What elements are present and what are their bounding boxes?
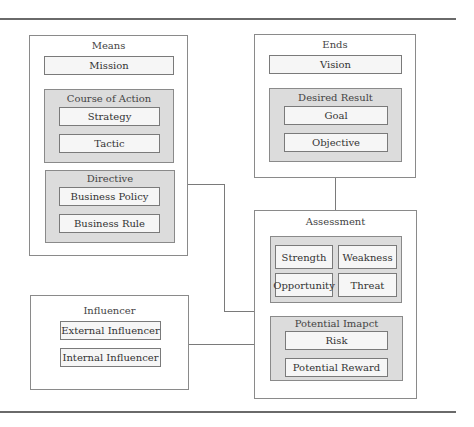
top-rule bbox=[0, 18, 456, 20]
potential-reward-box: Potential Reward bbox=[285, 358, 388, 377]
mission-box: Mission bbox=[44, 56, 174, 75]
connector-means-assessment bbox=[224, 184, 225, 312]
bottom-rule bbox=[0, 411, 456, 413]
goal-box: Goal bbox=[284, 106, 388, 125]
desired-result-title: Desired Result bbox=[270, 92, 401, 103]
ends-title: Ends bbox=[255, 39, 415, 50]
threat-box: Threat bbox=[338, 273, 397, 297]
strength-box: Strength bbox=[275, 245, 333, 269]
connector-means-assessment bbox=[224, 311, 254, 312]
vision-box: Vision bbox=[269, 55, 402, 74]
influencer-title: Influencer bbox=[31, 305, 188, 316]
directive-title: Directive bbox=[46, 173, 174, 184]
objective-box: Objective bbox=[284, 133, 388, 152]
internal-influencer-box: Internal Influencer bbox=[60, 348, 161, 367]
course-of-action-title: Course of Action bbox=[45, 93, 173, 104]
opportunity-box: Opportunity bbox=[275, 273, 333, 297]
strategy-box: Strategy bbox=[59, 107, 160, 126]
connector-ends-assessment bbox=[335, 177, 336, 210]
external-influencer-box: External Influencer bbox=[60, 321, 161, 340]
weakness-box: Weakness bbox=[338, 245, 397, 269]
assessment-title: Assessment bbox=[255, 216, 416, 227]
connector-influencer-assessment bbox=[188, 344, 254, 345]
business-rule-box: Business Rule bbox=[59, 214, 160, 233]
influencer-box: Influencer bbox=[30, 295, 189, 390]
potential-impact-title: Potential Imapct bbox=[271, 318, 402, 329]
means-title: Means bbox=[30, 40, 187, 51]
connector-means-assessment bbox=[187, 184, 225, 185]
business-policy-box: Business Policy bbox=[59, 187, 160, 206]
tactic-box: Tactic bbox=[59, 134, 160, 153]
risk-box: Risk bbox=[285, 331, 388, 350]
